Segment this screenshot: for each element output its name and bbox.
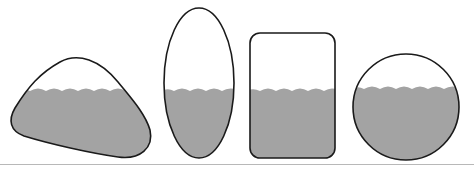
containers-diagram [0, 0, 474, 170]
diagram [0, 0, 474, 170]
rounded-rectangle-container [245, 33, 340, 170]
liquid-fill [0, 89, 160, 171]
circle-container [350, 54, 462, 170]
liquid-fill [350, 87, 462, 171]
tall-ellipse-container [160, 8, 240, 170]
tilted-blob-container [0, 58, 160, 170]
